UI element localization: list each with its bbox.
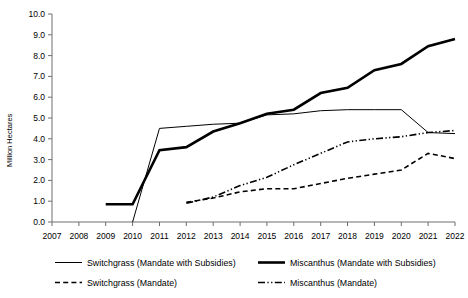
y-tick-label: 9.0 — [33, 30, 45, 40]
y-tick-label: 1.0 — [33, 196, 45, 206]
legend-label-switchgrass-subsidies: Switchgrass (Mandate with Subsidies) — [87, 258, 236, 268]
y-axis-title: Million Hectares — [5, 113, 14, 167]
y-tick-label: 10.0 — [28, 9, 45, 19]
x-tick-label: 2008 — [69, 231, 88, 241]
x-tick-label: 2013 — [204, 231, 223, 241]
legend-label-miscanthus-mandate: Miscanthus (Mandate) — [290, 278, 377, 288]
x-tick-label: 2021 — [419, 231, 438, 241]
x-tick-label: 2007 — [43, 231, 62, 241]
x-tick-label: 2017 — [311, 231, 330, 241]
legend-label-miscanthus-subsidies: Miscanthus (Mandate with Subsidies) — [290, 258, 436, 268]
x-tick-label: 2012 — [177, 231, 196, 241]
x-tick-label: 2018 — [338, 231, 357, 241]
y-tick-label: 2.0 — [33, 175, 45, 185]
x-tick-label: 2020 — [392, 231, 411, 241]
y-tick-label: 6.0 — [33, 92, 45, 102]
line-chart: Million Hectares 10.0 9.0 8.0 7.0 6.0 5.… — [0, 0, 468, 298]
x-tick-label: 2016 — [284, 231, 303, 241]
x-tick-label: 2011 — [150, 231, 169, 241]
x-tick-label: 2009 — [96, 231, 115, 241]
y-tick-label: 5.0 — [33, 113, 45, 123]
y-tick-label: 4.0 — [33, 134, 45, 144]
x-tick-label: 2014 — [231, 231, 250, 241]
x-tick-label: 2010 — [123, 231, 142, 241]
y-tick-label: 0.0 — [33, 217, 45, 227]
y-tick-label: 3.0 — [33, 155, 45, 165]
chart-background — [0, 0, 468, 298]
x-tick-label: 2022 — [446, 231, 465, 241]
y-tick-label: 7.0 — [33, 71, 45, 81]
x-tick-label: 2015 — [257, 231, 276, 241]
x-tick-label: 2019 — [365, 231, 384, 241]
y-tick-label: 8.0 — [33, 51, 45, 61]
legend-label-switchgrass-mandate: Switchgrass (Mandate) — [87, 278, 177, 288]
